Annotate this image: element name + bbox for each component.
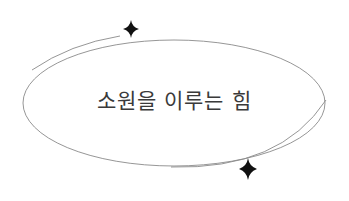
page-title: 소원을 이루는 힘 — [0, 84, 349, 114]
sparkle-top-icon — [123, 20, 139, 38]
sparkle-bottom-icon — [239, 158, 257, 180]
top-left-arc — [32, 36, 120, 70]
